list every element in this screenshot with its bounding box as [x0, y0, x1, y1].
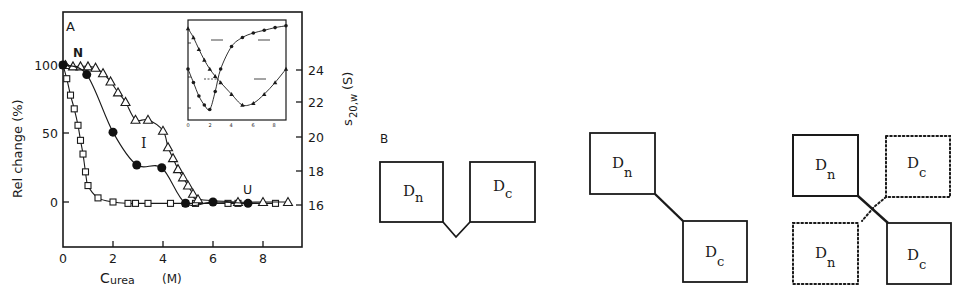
- y-right-tick-20: 20: [308, 130, 324, 145]
- inset-x-tick-4: 4: [229, 122, 232, 128]
- domain-c-text-1: D c: [493, 177, 512, 201]
- svg-text:D: D: [907, 154, 919, 172]
- data-point: [209, 198, 218, 207]
- svg-text:20,w: 20,w: [348, 94, 359, 118]
- y-right-tick-24: 24: [308, 63, 324, 78]
- x-tick-6: 6: [209, 251, 217, 266]
- panel-b-label: B: [380, 132, 388, 146]
- svg-text:n: n: [827, 167, 836, 182]
- inset-chart: 0 2 4 6 8: [186, 20, 288, 128]
- svg-text:D: D: [403, 182, 415, 200]
- linker: [655, 194, 683, 221]
- inset-point: [186, 67, 190, 71]
- data-point: [82, 70, 91, 79]
- data-point: [85, 183, 91, 189]
- x-axis: [113, 241, 263, 247]
- inset-x-tick-2: 2: [208, 122, 211, 128]
- svg-text:c: c: [919, 257, 926, 272]
- svg-text:urea: urea: [110, 274, 135, 287]
- x-tick-0: 0: [59, 251, 67, 266]
- panel-a-label: A: [66, 19, 75, 34]
- data-point: [64, 76, 70, 82]
- y-right-axis-label: s 20,w (S): [340, 72, 359, 126]
- data-point: [121, 97, 130, 105]
- svg-text:n: n: [624, 165, 633, 180]
- data-point: [164, 143, 173, 151]
- y-right-tick-18: 18: [308, 164, 324, 179]
- x-axis-label: C urea (M): [100, 270, 182, 287]
- y-left-axis-label: Rel change (%): [10, 99, 25, 198]
- domain-c-text-2: D c: [705, 243, 724, 269]
- data-point: [189, 189, 198, 197]
- inset-x-tick-8: 8: [272, 122, 275, 128]
- data-point: [114, 88, 123, 96]
- data-point: [184, 181, 193, 189]
- panel-b: B D n D c D n D c: [380, 132, 951, 284]
- linker: [443, 222, 470, 237]
- state-label-native: N: [73, 46, 83, 60]
- svg-text:n: n: [415, 190, 424, 205]
- y-tick-100: 100: [34, 58, 58, 73]
- svg-text:c: c: [717, 254, 724, 269]
- data-point: [68, 92, 74, 98]
- inset-point: [273, 26, 277, 30]
- data-point: [71, 106, 77, 112]
- domain-n-text-1: D n: [403, 182, 424, 205]
- y-tick-50: 50: [42, 126, 58, 141]
- inset-point: [230, 45, 234, 49]
- data-point: [132, 161, 141, 170]
- data-point: [125, 200, 131, 206]
- data-point: [168, 200, 174, 206]
- data-point: [78, 137, 84, 143]
- y-right-tick-16: 16: [308, 198, 324, 213]
- svg-text:(S): (S): [340, 72, 355, 90]
- state-label-intermediate: I: [141, 135, 147, 151]
- svg-text:D: D: [493, 177, 505, 195]
- right-y-axis: [296, 70, 302, 205]
- data-point: [80, 151, 86, 157]
- svg-text:D: D: [815, 244, 827, 262]
- y-right-tick-22: 22: [308, 95, 324, 110]
- x-tick-4: 4: [159, 251, 167, 266]
- x-tick-8: 8: [259, 251, 267, 266]
- figure-canvas: A 100 50 0 Rel change (%) 24 22 20 18 16…: [0, 0, 965, 298]
- data-point: [110, 199, 116, 205]
- svg-text:s: s: [340, 119, 355, 126]
- data-point: [244, 199, 253, 208]
- inset-point: [213, 90, 217, 94]
- domain-n-text-3a: D n: [815, 156, 836, 182]
- domain-c-text-3a: D c: [907, 154, 926, 180]
- data-point: [179, 173, 188, 181]
- inset-point: [192, 81, 196, 85]
- data-point: [59, 61, 68, 70]
- inset-x-tick-6: 6: [251, 122, 254, 128]
- data-point: [133, 200, 139, 206]
- data-point: [109, 128, 118, 137]
- svg-text:c: c: [919, 165, 926, 180]
- svg-text:C: C: [100, 270, 110, 286]
- panel-a: A 100 50 0 Rel change (%) 24 22 20 18 16…: [10, 12, 359, 287]
- inset-point: [208, 108, 212, 112]
- inset-point: [219, 67, 223, 71]
- svg-text:D: D: [705, 243, 717, 261]
- data-point: [157, 163, 166, 172]
- svg-text:D: D: [612, 154, 624, 172]
- svg-text:c: c: [505, 186, 512, 201]
- data-point: [83, 169, 89, 175]
- data-point: [145, 200, 151, 206]
- y-tick-0: 0: [50, 195, 58, 210]
- domain-c-text-3b: D c: [907, 246, 926, 272]
- inset-point: [252, 31, 256, 35]
- x-tick-2: 2: [109, 251, 117, 266]
- inset-point: [262, 29, 266, 33]
- svg-text:D: D: [815, 156, 827, 174]
- data-point: [273, 200, 279, 206]
- data-point: [181, 199, 190, 208]
- inset-x-tick-0: 0: [186, 122, 189, 128]
- domain-n-text-2: D n: [612, 154, 633, 180]
- data-point: [174, 165, 183, 173]
- inset-point: [241, 36, 245, 40]
- svg-text:D: D: [907, 246, 919, 264]
- svg-text:n: n: [827, 255, 836, 270]
- data-point: [95, 195, 101, 201]
